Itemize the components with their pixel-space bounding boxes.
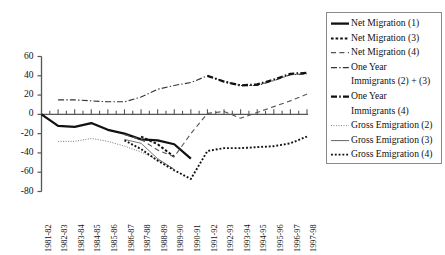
- series-line-4: [207, 73, 307, 86]
- series-line-3: [58, 74, 307, 102]
- y-tick-label: 60: [6, 52, 34, 62]
- x-tick-label: 1989-90: [177, 224, 185, 252]
- y-tick-label: 40: [6, 71, 34, 81]
- y-tick-label: -60: [6, 167, 34, 177]
- legend-swatch-fine-dotted-icon: [330, 118, 350, 133]
- legend-swatch-coarse-dotted-icon: [330, 147, 350, 162]
- chart-root: 6040200-20-40-60-80 1981-821982-831983-8…: [0, 0, 445, 255]
- legend-item-label: One Year: [350, 89, 387, 104]
- legend-line-sample: [330, 31, 350, 46]
- y-tick-label: 0: [6, 109, 34, 119]
- series-line-5: [58, 138, 174, 169]
- legend-item[interactable]: Gross Emigration (3): [330, 133, 439, 148]
- x-tick-label: 1986-87: [128, 224, 136, 252]
- plot-svg: [0, 0, 320, 255]
- legend-item[interactable]: Gross Emigration (4): [330, 147, 439, 162]
- x-tick-label: 1988-89: [161, 224, 169, 252]
- legend-item[interactable]: One Year: [330, 60, 439, 75]
- plot-area: [0, 0, 320, 255]
- legend-swatch-dashed-icon: [330, 45, 350, 60]
- legend-item-label: Gross Emigration (4): [350, 147, 433, 162]
- x-tick-label: 1982-83: [61, 224, 69, 252]
- x-tick-label: 1991-92: [211, 224, 219, 252]
- y-tick-label: -80: [6, 187, 34, 197]
- legend-line-sample: [330, 118, 350, 133]
- legend-swatch-dash-dot-icon: [330, 60, 350, 75]
- legend-item-label-continued: Immigrants (2) + (3): [330, 74, 439, 89]
- legend-line-sample: [330, 16, 350, 31]
- x-tick-label: 1994-95: [260, 224, 268, 252]
- legend-item-label: Gross Emigration (2): [350, 118, 433, 133]
- x-tick-label: 1983-84: [78, 224, 86, 252]
- legend-swatch-solid-thick-icon: [330, 16, 350, 31]
- legend-swatch-dash-dot-thick-icon: [330, 89, 350, 104]
- legend-line-sample: [330, 60, 350, 75]
- chart-legend: Net Migration (1)Net Migration (3)Net Mi…: [326, 12, 442, 164]
- x-tick-label: 1996-97: [294, 224, 302, 252]
- x-tick-label: 1995-96: [277, 224, 285, 252]
- legend-item-label: One Year: [350, 60, 387, 75]
- x-tick-label: 1985-86: [111, 224, 119, 252]
- legend-item[interactable]: Net Migration (1): [330, 16, 439, 31]
- y-tick-label: 20: [6, 90, 34, 100]
- legend-item[interactable]: Net Migration (4): [330, 45, 439, 60]
- x-tick-label: 1981-82: [45, 224, 53, 252]
- y-tick-label: -40: [6, 148, 34, 158]
- legend-item[interactable]: Gross Emigration (2): [330, 118, 439, 133]
- legend-line-sample: [330, 45, 350, 60]
- legend-line-sample: [330, 133, 350, 148]
- legend-item-label: Gross Emigration (3): [350, 133, 433, 148]
- x-tick-label: 1990-91: [194, 224, 202, 252]
- legend-line-sample: [330, 147, 350, 162]
- legend-item-label: Net Migration (3): [350, 31, 419, 46]
- legend-swatch-dotted-icon: [330, 31, 350, 46]
- y-tick-label: -20: [6, 129, 34, 139]
- x-tick-label: 1992-93: [227, 224, 235, 252]
- legend-item-label: Net Migration (1): [350, 16, 419, 31]
- x-tick-label: 1984-85: [94, 224, 102, 252]
- x-tick-label: 1997-98: [310, 224, 318, 252]
- x-tick-label: 1987-88: [144, 224, 152, 252]
- legend-item[interactable]: One Year: [330, 89, 439, 104]
- series-line-2: [124, 94, 307, 157]
- legend-swatch-thin-solid-icon: [330, 133, 350, 148]
- legend-line-sample: [330, 89, 350, 104]
- series-line-7: [124, 137, 307, 179]
- series-line-0: [42, 114, 191, 158]
- x-tick-label: 1993-94: [244, 224, 252, 252]
- legend-item[interactable]: Net Migration (3): [330, 31, 439, 46]
- legend-item-label-continued: Immigrants (4): [330, 104, 439, 119]
- legend-item-label: Net Migration (4): [350, 45, 419, 60]
